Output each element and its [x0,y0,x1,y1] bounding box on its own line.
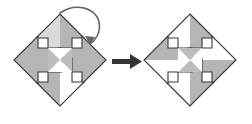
result-figure [136,0,252,124]
result-figure-svg [136,0,252,124]
center-pattern [48,48,72,72]
source-figure [0,0,126,124]
center-pattern [178,48,202,72]
source-figure-svg [0,0,126,124]
diagram-canvas [0,0,252,124]
arrow-shaft [112,59,132,64]
